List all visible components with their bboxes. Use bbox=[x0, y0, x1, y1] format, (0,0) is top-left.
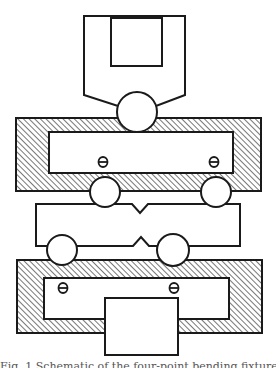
lower-right-roller bbox=[157, 234, 189, 266]
figure-caption: Fig. 1 Schematic of the four-point bendi… bbox=[0, 360, 276, 368]
base-support-block bbox=[105, 298, 178, 355]
upper-frame-cavity bbox=[49, 132, 233, 173]
lower-left-roller bbox=[47, 235, 77, 265]
upper-load-roller bbox=[117, 92, 157, 132]
upper-left-roller bbox=[90, 177, 120, 207]
upper-right-roller bbox=[201, 177, 231, 207]
loading-head-inner-square bbox=[111, 18, 162, 66]
bend-fixture-diagram bbox=[0, 0, 276, 368]
